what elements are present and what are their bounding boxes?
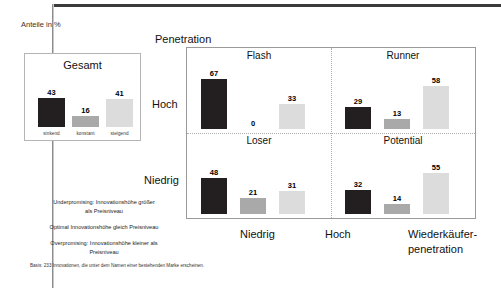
legend-overpromising-line1: Overpromising: Innovationshöhe kleiner a… xyxy=(18,239,190,248)
quadrant-potential-bars: 321455 xyxy=(331,154,475,216)
quadrant-runner: Runner 291358 xyxy=(331,48,475,133)
quadrant-loser: Loser 482131 xyxy=(187,133,331,218)
bar xyxy=(38,98,65,127)
bar-group: 31 xyxy=(279,148,305,214)
matrix-y-label-high: Hoch xyxy=(152,98,178,110)
bar xyxy=(423,86,449,129)
bar xyxy=(106,99,133,127)
bar-group: 32 xyxy=(345,148,371,214)
bar-value-label: 14 xyxy=(393,194,401,203)
bar-group: 55 xyxy=(423,148,449,214)
bar xyxy=(384,204,410,214)
bar-value-label: 0 xyxy=(251,119,255,128)
bar-category-label: steigend xyxy=(110,131,128,136)
bar xyxy=(201,79,227,129)
bar-value-label: 58 xyxy=(432,76,440,85)
gesamt-chart-panel: Gesamt 43sinkend16konstant41steigend xyxy=(24,53,141,141)
bar-group: 43sinkend xyxy=(38,65,65,127)
quadrant-potential-title: Potential xyxy=(331,135,475,146)
bar-group: 21 xyxy=(240,148,266,214)
bar xyxy=(279,191,305,214)
matrix-y-label-low: Niedrig xyxy=(144,174,179,186)
slide-top-rule xyxy=(52,4,501,7)
bar xyxy=(279,104,305,129)
quadrant-runner-bars: 291358 xyxy=(331,69,475,131)
quadrant-runner-title: Runner xyxy=(331,50,475,61)
quadrant-loser-bars: 482131 xyxy=(187,154,331,216)
bar-group: 48 xyxy=(201,148,227,214)
bar-value-label: 21 xyxy=(249,188,257,197)
bar-group: 29 xyxy=(345,63,371,129)
y-axis-note: Anteile in % xyxy=(21,20,61,29)
bar-value-label: 67 xyxy=(210,69,218,78)
bar xyxy=(201,178,227,214)
bar-group: 0 xyxy=(240,63,266,129)
quadrant-flash-bars: 67033 xyxy=(187,69,331,131)
legend-item-optimal: Optimal Innovationshöhe gleich Preisnive… xyxy=(18,223,190,232)
bar xyxy=(72,116,99,127)
bar-group: 41steigend xyxy=(106,65,133,127)
bar xyxy=(384,119,410,129)
matrix-x-label-high: Hoch xyxy=(325,228,351,240)
quadrant-flash: Flash 67033 xyxy=(187,48,331,133)
bar-category-label: konstant xyxy=(76,131,94,136)
legend-overpromising-line2: Preisniveau xyxy=(18,248,190,257)
legend-item-underpromising: Underpromising: Innovationshöhe größer a… xyxy=(18,198,190,215)
bar-value-label: 31 xyxy=(288,181,296,190)
matrix-y-axis-title: Penetration xyxy=(155,33,211,45)
bar-group: 16konstant xyxy=(72,65,99,127)
bar-group: 13 xyxy=(384,63,410,129)
bar-value-label: 55 xyxy=(432,163,440,172)
bar-category-label: sinkend xyxy=(43,131,60,136)
matrix-x-axis-title-line1: Wiederkäufer- xyxy=(408,228,477,240)
matrix-x-label-low: Niedrig xyxy=(240,228,275,240)
bar-value-label: 48 xyxy=(210,168,218,177)
bar-value-label: 32 xyxy=(354,180,362,189)
bar-value-label: 41 xyxy=(115,89,123,98)
bar-group: 14 xyxy=(384,148,410,214)
footnote: Basis: 233 Innovationen, die unter dem N… xyxy=(30,263,204,268)
legend-underpromising-line1: Underpromising: Innovationshöhe größer xyxy=(18,198,190,207)
legend-underpromising-line2: als Preisniveau xyxy=(18,207,190,216)
bar-group: 67 xyxy=(201,63,227,129)
quadrant-potential: Potential 321455 xyxy=(331,133,475,218)
bar-value-label: 13 xyxy=(393,109,401,118)
penetration-matrix: Flash 67033 Runner 291358 Loser 482131 P… xyxy=(186,47,476,219)
quadrant-flash-title: Flash xyxy=(187,50,331,61)
legend-item-overpromising: Overpromising: Innovationshöhe kleiner a… xyxy=(18,239,190,256)
bar xyxy=(240,198,266,214)
bar xyxy=(345,107,371,129)
matrix-x-axis-title-line2: penetration xyxy=(408,243,463,255)
gesamt-bars: 43sinkend16konstant41steigend xyxy=(25,54,140,140)
bar-group: 58 xyxy=(423,63,449,129)
legend-optimal-line1: Optimal Innovationshöhe gleich Preisnive… xyxy=(18,223,190,232)
bar xyxy=(345,190,371,214)
quadrant-loser-title: Loser xyxy=(187,135,331,146)
bar-group: 33 xyxy=(279,63,305,129)
slide-canvas: Anteile in % Gesamt 43sinkend16konstant4… xyxy=(0,0,501,292)
bar-value-label: 43 xyxy=(47,88,55,97)
bar-value-label: 33 xyxy=(288,94,296,103)
bar xyxy=(423,173,449,214)
bar-value-label: 29 xyxy=(354,97,362,106)
bar-value-label: 16 xyxy=(81,106,89,115)
